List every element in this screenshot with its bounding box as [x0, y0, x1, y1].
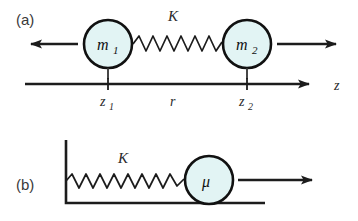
spring-constant-label-b: K [117, 150, 129, 166]
mass-mu-symbol: μ [201, 173, 210, 191]
mass-m1-symbol: m [97, 36, 109, 53]
panel-b-label: (b) [16, 176, 34, 193]
panel-a-label: (a) [16, 11, 34, 28]
physics-figure: (a) K m 1 m 2 [0, 0, 358, 221]
z-axis-label: z [333, 78, 340, 93]
wall-and-floor [66, 140, 265, 203]
z1-subscript: 1 [109, 101, 114, 112]
mass-m2: m 2 [223, 20, 271, 68]
spring-coil-a [133, 36, 222, 51]
mass-m1-subscript: 1 [113, 44, 119, 56]
separation-label-r: r [170, 94, 176, 109]
z1-tick-label: z 1 [99, 94, 114, 112]
z1-symbol: z [99, 94, 106, 109]
spring-constant-label-a: K [167, 8, 179, 24]
z2-subscript: 2 [248, 101, 253, 112]
diagram-canvas: (a) K m 1 m 2 [0, 0, 358, 221]
mass-m2-subscript: 2 [252, 44, 258, 56]
panel-a: (a) K m 1 m 2 [16, 8, 340, 112]
panel-b: (b) K μ [16, 140, 312, 204]
mass-m2-symbol: m [236, 36, 248, 53]
mass-m1: m 1 [84, 20, 132, 68]
z2-symbol: z [238, 94, 245, 109]
spring-coil-b [66, 174, 184, 188]
z2-tick-label: z 2 [238, 94, 253, 112]
mass-mu: μ [185, 156, 233, 204]
